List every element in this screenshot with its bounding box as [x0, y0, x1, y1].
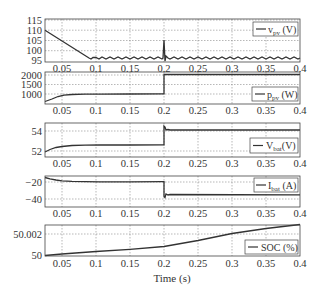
- xtick: 0.05: [53, 105, 71, 116]
- x-axis-label: Time (s): [153, 272, 191, 285]
- xtick: 0.2: [157, 158, 170, 169]
- svg-text:SOC (%): SOC (%): [261, 242, 298, 254]
- chart-figure: 115 110 105 100 95 0.05 0.1 0.15 0.2 0.2…: [0, 0, 320, 297]
- xtick: 0.1: [89, 105, 102, 116]
- xtick: 0.3: [225, 105, 238, 116]
- xtick: 0.05: [53, 258, 71, 269]
- xtick: 0.3: [225, 158, 238, 169]
- xtick: 0.35: [257, 208, 275, 219]
- ytick: 95: [32, 55, 43, 66]
- xtick: 0.1: [89, 258, 102, 269]
- xtick: 0.15: [121, 105, 139, 116]
- xtick: 0.25: [189, 105, 207, 116]
- ytick: −40: [26, 194, 42, 205]
- xtick: 0.4: [293, 105, 307, 116]
- xtick: 0.4: [293, 158, 307, 169]
- xtick: 0.25: [189, 158, 207, 169]
- ytick: 52: [32, 146, 43, 157]
- xtick: 0.15: [121, 258, 139, 269]
- legend-vpv: vpv (V): [253, 22, 298, 37]
- xtick: 0.2: [157, 208, 170, 219]
- xtick: 0.1: [89, 208, 102, 219]
- panel-vbat: 54 52 0.05 0.1 0.15 0.2 0.25 0.3 0.35 0.…: [32, 123, 308, 169]
- legend-soc: SOC (%): [245, 240, 298, 254]
- panel-ppv: 2000 1500 1000 0.05 0.1 0.15 0.2 0.25 0.…: [21, 70, 307, 117]
- ytick: −20: [26, 177, 42, 188]
- xtick: 0.05: [53, 158, 71, 169]
- panel-vpv: 115 110 105 100 95 0.05 0.1 0.15 0.2 0.2…: [26, 15, 307, 75]
- xtick: 0.2: [157, 258, 170, 269]
- xtick: 0.25: [189, 208, 207, 219]
- ytick: 50.002: [13, 229, 42, 240]
- xtick: 0.35: [257, 258, 275, 269]
- xtick: 0.1: [89, 158, 102, 169]
- xtick: 0.3: [225, 208, 238, 219]
- xtick: 0.05: [53, 208, 71, 219]
- xtick: 0.25: [189, 258, 207, 269]
- legend-ibat: Ibat (A): [254, 178, 298, 193]
- ytick: 1000: [21, 89, 42, 100]
- xtick: 0.15: [121, 158, 139, 169]
- ytick: 50: [32, 250, 43, 261]
- xtick: 0.4: [293, 258, 307, 269]
- legend-ppv: ppv (W): [252, 87, 298, 102]
- xtick: 0.3: [225, 258, 238, 269]
- xtick: 0.4: [293, 208, 307, 219]
- xtick: 0.15: [121, 208, 139, 219]
- ytick: 54: [32, 126, 43, 137]
- xtick: 0.2: [157, 105, 170, 116]
- xtick: 0.35: [257, 105, 275, 116]
- panel-ibat: −20 −40 0.05 0.1 0.15 0.2 0.25 0.3 0.35 …: [26, 176, 308, 219]
- xtick: 0.35: [257, 158, 275, 169]
- panel-soc: 50.002 50 0.05 0.1 0.15 0.2 0.25 0.3 0.3…: [13, 225, 307, 286]
- legend-vbat: Vbat(V): [250, 138, 298, 153]
